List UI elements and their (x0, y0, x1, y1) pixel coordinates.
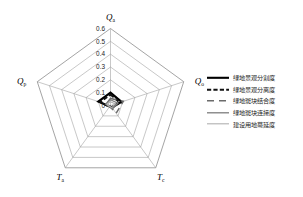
radial-tick-label: 0.5 (96, 38, 105, 45)
legend-key-dashed-thick-icon (206, 84, 230, 96)
radial-tick-label: 0.3 (96, 63, 105, 70)
legend-key-solid-thick-icon (206, 72, 230, 84)
legend-label: 绿地景观分割度 (230, 73, 275, 82)
axis-vertex-label: Tc (157, 172, 165, 183)
axis-vertex-label: Ta (56, 172, 64, 183)
radar-chart-figure: 0.60.50.40.30.20.10 QaQoTcTaQp 绿地景观分割度 绿… (0, 0, 303, 197)
legend-label: 绿地斑块连接度 (230, 108, 275, 117)
axis-vertex-label: Qa (106, 12, 116, 23)
legend-key-solid-light-icon (206, 118, 230, 130)
legend-item[interactable]: 绿地景观分割度 (206, 72, 302, 84)
legend-label: 绿地斑块结合度 (230, 96, 275, 105)
legend-item[interactable]: 绿地斑块连接度 (206, 107, 302, 119)
legend-item[interactable]: 建设用地蔓延度 (206, 118, 302, 130)
radial-tick-label: 0.2 (96, 76, 105, 83)
axis-vertex-label: Qo (195, 76, 205, 87)
legend-label: 建设用地蔓延度 (230, 120, 275, 129)
radial-tick-label: 0.4 (96, 50, 105, 57)
legend-item[interactable]: 绿地景观分离度 (206, 84, 302, 96)
legend-label: 绿地景观分离度 (230, 85, 275, 94)
axis-vertex-label: Qp (17, 76, 27, 87)
legend-item[interactable]: 绿地斑块结合度 (206, 95, 302, 107)
legend-key-longdash-icon (206, 95, 230, 107)
radial-tick-label: 0 (101, 102, 105, 109)
chart-legend: 绿地景观分割度 绿地景观分离度 绿地斑块结合度 绿地斑块连接度 建设用地蔓延度 (206, 72, 302, 130)
legend-key-solid-medium-icon (206, 107, 230, 119)
radial-tick-label: 0.1 (96, 89, 105, 96)
radial-tick-label: 0.6 (96, 25, 105, 32)
